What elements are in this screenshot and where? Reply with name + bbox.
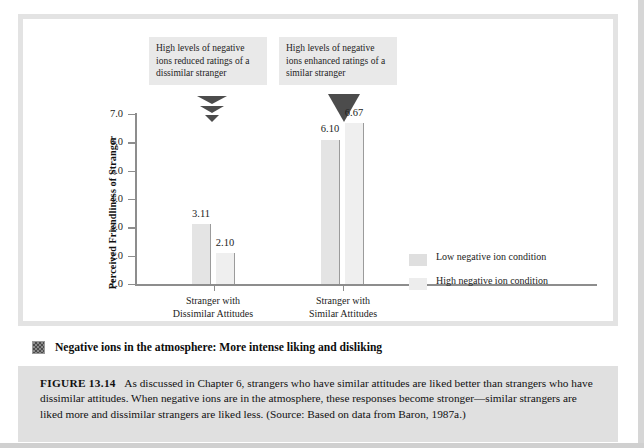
y-tick-3 — [128, 227, 135, 228]
y-tick-label-3: 3.0 — [91, 221, 123, 232]
y-tick-5 — [128, 171, 135, 172]
chart-plot-area: High levels of negative ions reduced rat… — [23, 19, 613, 321]
callout-box-right: High levels of negative ions enhanced ra… — [279, 37, 397, 85]
y-tick-label-1: 1.0 — [91, 278, 123, 289]
x-axis-label-similar-line2: Similar Attitudes — [268, 308, 418, 321]
x-axis-label-similar-line1: Stranger with — [268, 295, 418, 308]
y-axis-line — [135, 113, 137, 285]
bar-high-similar — [345, 123, 364, 284]
figure-headline-text: Negative ions in the atmosphere: More in… — [55, 341, 382, 354]
page-edge-right — [638, 0, 644, 448]
figure-caption-text: FIGURE 13.14 As discussed in Chapter 6, … — [40, 376, 596, 422]
figure-caption-block: FIGURE 13.14 As discussed in Chapter 6, … — [18, 366, 618, 442]
legend-swatch-high-icon — [409, 278, 427, 290]
chart-panel: High levels of negative ions reduced rat… — [18, 14, 618, 326]
bar-value-low-dissimilar: 3.11 — [179, 208, 223, 219]
page-edge-bottom — [0, 443, 644, 448]
callout-box-left: High levels of negative ions reduced rat… — [149, 37, 267, 85]
bar-low-dissimilar — [192, 224, 211, 284]
x-axis-label-dissimilar-line1: Stranger with — [138, 295, 288, 308]
y-tick-7 — [128, 114, 135, 115]
bar-value-high-similar: 6.67 — [332, 107, 376, 118]
legend-label-low: Low negative ion condition — [436, 251, 546, 262]
figure-caption-body: As discussed in Chapter 6, strangers who… — [40, 377, 593, 420]
x-tick-similar — [343, 285, 344, 291]
bar-low-similar — [321, 140, 340, 285]
y-tick-label-4: 4.0 — [91, 193, 123, 204]
x-axis-label-similar: Stranger with Similar Attitudes — [268, 295, 418, 320]
y-tick-label-2: 2.0 — [91, 250, 123, 261]
y-tick-1 — [128, 284, 135, 285]
x-axis-label-dissimilar-line2: Dissimilar Attitudes — [138, 308, 288, 321]
stacked-down-triangle-icon — [191, 95, 233, 123]
y-tick-6 — [128, 142, 135, 143]
bar-high-dissimilar — [216, 253, 235, 284]
bar-value-high-dissimilar: 2.10 — [203, 237, 247, 248]
y-tick-2 — [128, 256, 135, 257]
y-tick-label-6: 6.0 — [91, 136, 123, 147]
figure-caption-label: FIGURE 13.14 — [40, 377, 116, 389]
y-tick-label-7: 7.0 — [91, 108, 123, 119]
x-tick-dissimilar — [214, 285, 215, 291]
checkered-square-icon — [32, 341, 45, 354]
figure-page: High levels of negative ions reduced rat… — [0, 0, 644, 448]
x-axis-label-dissimilar: Stranger with Dissimilar Attitudes — [138, 295, 288, 320]
legend-swatch-low-icon — [409, 254, 427, 266]
y-tick-label-5: 5.0 — [91, 165, 123, 176]
figure-headline-band: Negative ions in the atmosphere: More in… — [18, 334, 618, 360]
legend-label-high: High negative ion condition — [436, 275, 548, 286]
y-tick-4 — [128, 199, 135, 200]
